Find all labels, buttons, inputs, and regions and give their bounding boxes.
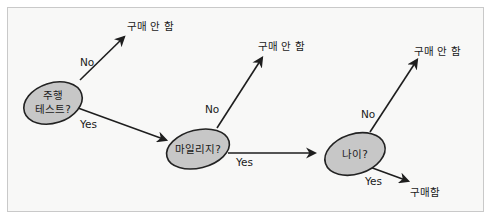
node-age-label: 나이? — [342, 148, 368, 160]
node-mileage: 마일리지? — [162, 123, 233, 175]
node-test-drive-line1: 주행 — [43, 89, 63, 101]
label-mileage-no: No — [205, 103, 219, 115]
node-test-drive-line2: 테스트? — [35, 103, 71, 115]
node-test-drive: 주행 테스트? — [18, 75, 87, 132]
outcome-no-buy-2: 구매 안 함 — [258, 40, 305, 52]
label-test-drive-no: No — [80, 56, 94, 68]
label-test-drive-yes: Yes — [79, 118, 97, 130]
outcome-no-buy-3: 구매 안 함 — [414, 45, 461, 57]
edge-mileage-no — [217, 58, 262, 128]
label-age-no: No — [361, 108, 375, 120]
edge-age-no — [370, 60, 417, 132]
outcome-no-buy-1: 구매 안 함 — [127, 20, 174, 32]
outcome-buy: 구매함 — [410, 186, 440, 198]
label-age-yes: Yes — [364, 175, 382, 187]
node-mileage-label: 마일리지? — [175, 143, 221, 155]
decision-tree-diagram: 주행 테스트? 마일리지? 나이? No Yes No Yes No Yes 구… — [0, 0, 494, 220]
label-mileage-yes: Yes — [235, 156, 253, 168]
